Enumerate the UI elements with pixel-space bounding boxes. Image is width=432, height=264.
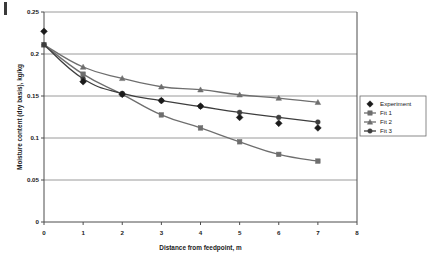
x-tick-label-3: 3	[160, 229, 164, 236]
x-axis-tick-labels: 012345678	[42, 229, 359, 236]
data-point	[237, 139, 242, 144]
data-point	[276, 152, 281, 157]
x-tick-label-6: 6	[277, 229, 281, 236]
gridlines	[44, 12, 357, 180]
chart-figure: 00.050.10.150.20.25 012345678 Experiment…	[0, 0, 432, 264]
data-point	[41, 28, 48, 35]
y-tick-label-0.1: 0.1	[30, 134, 39, 141]
x-tick-label-5: 5	[238, 229, 242, 236]
data-point	[236, 114, 243, 121]
series-line-fit-1	[44, 45, 318, 161]
x-tick-label-1: 1	[81, 229, 85, 236]
y-tick-label-0.25: 0.25	[27, 8, 40, 15]
axes	[44, 12, 357, 222]
series-fit-1	[42, 42, 320, 163]
data-point	[158, 97, 165, 104]
x-tick-label-8: 8	[355, 229, 359, 236]
chart-legend[interactable]: ExperimentFit 1Fit 2Fit 3	[360, 96, 426, 136]
x-tick-label-0: 0	[42, 229, 46, 236]
data-point	[316, 159, 321, 164]
data-point	[42, 42, 47, 47]
x-tick-label-2: 2	[121, 229, 125, 236]
y-axis-title: Moisture content (dry basis), kg/kg	[16, 64, 24, 170]
x-tick-label-4: 4	[199, 229, 203, 236]
data-point	[197, 103, 204, 110]
axis-ticks	[41, 12, 357, 225]
legend-swatch-marker	[368, 111, 372, 115]
moisture-content-line-chart: 00.050.10.150.20.25 012345678 Experiment…	[0, 0, 432, 264]
data-point	[159, 113, 164, 118]
x-tick-label-7: 7	[316, 229, 320, 236]
legend-swatch-marker	[368, 129, 373, 134]
page-corner-mark	[4, 2, 7, 15]
data-point	[275, 120, 282, 127]
y-tick-label-0.15: 0.15	[27, 92, 40, 99]
y-tick-label-0: 0	[36, 218, 40, 225]
y-axis-tick-labels: 00.050.10.150.20.25	[27, 8, 40, 225]
legend-item-label: Fit 2	[380, 118, 393, 125]
legend-item-label: Fit 1	[380, 109, 393, 116]
data-point	[315, 120, 320, 125]
x-axis-title: Distance from feedpoint, m	[159, 244, 242, 252]
data-point	[81, 72, 86, 77]
y-tick-label-0.05: 0.05	[27, 176, 40, 183]
data-point	[198, 126, 203, 131]
y-tick-label-0.2: 0.2	[30, 50, 39, 57]
data-point	[276, 115, 281, 120]
data-point	[314, 125, 321, 132]
legend-item-label: Experiment	[380, 100, 412, 107]
legend-item-label: Fit 3	[380, 127, 393, 134]
